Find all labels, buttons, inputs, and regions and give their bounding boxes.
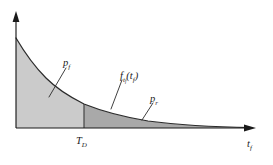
region-left-pf <box>16 38 84 128</box>
region-right-pr <box>84 104 252 128</box>
label-pr-sub: r <box>155 99 158 107</box>
label-density-paren-close: ) <box>134 70 139 82</box>
figure-canvas: pf ftf(tf) pr TD tf <box>0 0 273 165</box>
label-density-function: ftf(tf) <box>120 70 139 84</box>
leader-line-pr <box>142 103 153 120</box>
x-axis-label: tf <box>247 138 253 152</box>
x-axis-label-sub: f <box>250 144 253 152</box>
probability-density-figure: pf ftf(tf) pr TD tf <box>0 0 273 165</box>
label-pf-sub: f <box>68 63 71 71</box>
label-pf: pf <box>62 57 71 71</box>
x-axis-arrow-icon <box>244 124 256 131</box>
xtick-TD-sub: D <box>81 141 87 149</box>
y-axis-arrow-icon <box>13 11 20 22</box>
label-pr: pr <box>149 93 158 107</box>
xtick-label-TD: TD <box>76 135 87 149</box>
leader-line-curve <box>111 80 122 109</box>
